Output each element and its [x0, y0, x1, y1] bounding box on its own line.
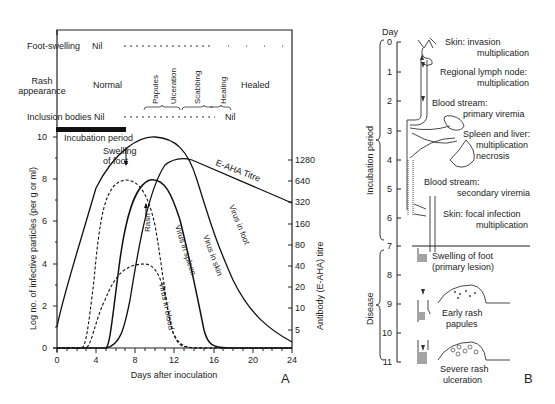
svg-text:4: 4: [387, 155, 392, 165]
swelling-annotation-1: Swelling: [103, 146, 137, 156]
svg-text:10: 10: [295, 303, 305, 313]
foot-swelling-label: Foot-swelling: [27, 41, 80, 51]
svg-text:multiplication: multiplication: [477, 48, 529, 58]
stage-ulceration: Ulceration: [169, 68, 178, 104]
curves: [57, 137, 292, 348]
stage-braces: [144, 105, 231, 110]
svg-text:7: 7: [387, 241, 392, 251]
inclusion-nil-end: Nil: [225, 112, 236, 122]
rash-healed: Healed: [241, 80, 270, 90]
label-virus-in-spleen: Virus in spleen: [173, 224, 198, 277]
svg-text:0: 0: [54, 355, 59, 365]
svg-text:6: 6: [42, 216, 47, 226]
svg-text:4: 4: [42, 259, 47, 269]
y-axis-left: 10 8 6 4 2 0: [37, 132, 57, 353]
x-axis-label: Days after inoculation: [131, 370, 218, 380]
svg-text:5: 5: [295, 325, 300, 335]
inclusion-label: Inclusion bodies: [27, 112, 92, 122]
svg-text:8: 8: [42, 174, 47, 184]
brace-disease-label: Disease: [365, 292, 375, 325]
svg-text:papules: papules: [446, 319, 478, 329]
svg-text:necrosis: necrosis: [476, 151, 510, 161]
svg-text:8: 8: [132, 355, 137, 365]
foot-swelling-nil: Nil: [92, 41, 103, 51]
brace-incubation-label: Incubation period: [365, 126, 375, 195]
svg-text:24: 24: [287, 355, 297, 365]
svg-text:3: 3: [387, 126, 392, 136]
rash-dots: [454, 290, 476, 299]
svg-text:10: 10: [382, 328, 392, 338]
stage-early-rash: Early rash: [442, 308, 483, 318]
rash-label-2: appearance: [18, 86, 66, 96]
svg-text:80: 80: [295, 240, 305, 250]
svg-text:9: 9: [387, 299, 392, 309]
label-virus-in-foot: Virus in foot: [227, 203, 251, 246]
svg-text:20: 20: [295, 282, 305, 292]
incubation-label: Incubation period: [64, 133, 133, 143]
svg-text:multiplication: multiplication: [476, 220, 528, 230]
day-ticks: 0 1 2 3 4 5 6 7 8 9 10 11: [382, 37, 401, 367]
svg-text:12: 12: [169, 355, 179, 365]
panel-b-label: B: [524, 371, 533, 386]
svg-text:2: 2: [387, 96, 392, 106]
svg-text:0: 0: [42, 343, 47, 353]
svg-text:20: 20: [248, 355, 258, 365]
svg-text:6: 6: [387, 213, 392, 223]
stage-papules: Papules: [151, 75, 160, 104]
rash-normal: Normal: [93, 80, 122, 90]
day-label: Day: [382, 27, 399, 37]
svg-text:5: 5: [387, 184, 392, 194]
stage-skin-invasion: Skin: invasion: [445, 37, 501, 47]
svg-text:multiplication: multiplication: [476, 140, 528, 150]
stage-lymph-node: Regional lymph node:: [440, 67, 527, 77]
svg-text:320: 320: [295, 197, 310, 207]
rash-annotation: Rash: [143, 213, 152, 232]
stage-foot-swelling: Swelling of foot: [432, 251, 494, 261]
stage-severe-rash: Severe rash: [440, 364, 489, 374]
label-virus-in-skin: Virus in skin: [201, 234, 224, 277]
svg-text:secondary viremia: secondary viremia: [457, 188, 530, 198]
svg-text:0: 0: [387, 37, 392, 47]
svg-text:10: 10: [37, 132, 47, 142]
stage-primary-viremia: Blood stream:: [432, 98, 488, 108]
panel-a-label: A: [281, 371, 290, 386]
stage-secondary-viremia: Blood stream:: [424, 177, 480, 187]
svg-text:640: 640: [295, 176, 310, 186]
svg-text:1: 1: [387, 67, 392, 77]
stage-skin-focal: Skin: focal infection: [443, 209, 521, 219]
svg-text:primary viremia: primary viremia: [463, 109, 525, 119]
stage-healing: Healing: [219, 77, 228, 104]
svg-text:11: 11: [383, 357, 392, 367]
curve-virus-in-foot: [57, 137, 292, 342]
svg-text:2: 2: [42, 301, 47, 311]
y-axis-right-label: Antibody (E-AHA) titre: [315, 241, 325, 330]
inclusion-nil-start: Nil: [94, 112, 105, 122]
stage-scabbing: Scabbing: [193, 71, 202, 104]
svg-text:160: 160: [295, 219, 310, 229]
svg-text:(primary lesion): (primary lesion): [432, 262, 494, 272]
svg-text:40: 40: [295, 261, 305, 271]
svg-text:multiplication: multiplication: [477, 78, 529, 88]
svg-text:ulceration: ulceration: [443, 375, 482, 385]
brace-disease: [376, 250, 384, 360]
svg-text:8: 8: [387, 270, 392, 280]
figure-canvas: Foot-swelling Nil Rash appearance Normal…: [0, 0, 555, 404]
stage-spleen-liver: Spleen and liver:: [463, 129, 530, 139]
curve-virus-late-rise: [106, 159, 192, 348]
ulcer-circles: [451, 345, 478, 356]
svg-text:4: 4: [93, 355, 98, 365]
x-axis: 0 4 8 12 16 20 24: [54, 348, 297, 365]
svg-text:1280: 1280: [295, 155, 315, 165]
y-axis-left-label: Log no. of infective particles (per g or…: [28, 167, 38, 330]
incubation-bar: [56, 127, 126, 132]
panel-b: Day 0 1 2 3 4 5 6 7 8 9 10 11 Incubation…: [365, 27, 533, 386]
brace-incubation: [376, 40, 384, 240]
label-virus-in-blood: Virus in blood: [157, 282, 176, 331]
svg-text:16: 16: [209, 355, 219, 365]
panel-a: Foot-swelling Nil Rash appearance Normal…: [18, 30, 325, 386]
rash-label-1: Rash: [31, 76, 52, 86]
